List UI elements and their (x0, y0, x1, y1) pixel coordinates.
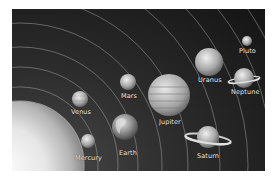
label-mars: Mars (121, 93, 137, 100)
solar-system-image: Mercury Venus Earth Mars Jupiter Saturn … (12, 9, 265, 171)
label-mercury: Mercury (75, 155, 102, 162)
planet-jupiter (148, 74, 190, 116)
label-jupiter: Jupiter (159, 119, 181, 126)
solar-system-illustration (12, 9, 265, 171)
planet-venus (72, 91, 88, 107)
planet-pluto (242, 36, 252, 46)
planet-uranus (195, 48, 223, 76)
label-saturn: Saturn (197, 153, 219, 160)
label-venus: Venus (71, 109, 91, 116)
label-uranus: Uranus (198, 77, 222, 84)
planet-mars (120, 74, 136, 90)
planet-earth (112, 114, 138, 140)
label-pluto: Pluto (239, 48, 256, 55)
label-neptune: Neptune (231, 89, 259, 96)
planet-neptune (234, 68, 254, 88)
planet-mercury (81, 134, 95, 148)
label-earth: Earth (119, 150, 137, 157)
